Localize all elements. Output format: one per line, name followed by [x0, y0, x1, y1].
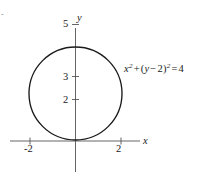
x-tick-label-2: 2 [116, 144, 121, 155]
equation-plus: + [133, 63, 141, 74]
corner-mark: - [1, 11, 4, 19]
x-axis-label: x [143, 136, 148, 147]
circle-graph-figure: - 5 3 2 -2 2 y x x2+(y−2)2=4 [0, 0, 199, 176]
y-tick-label-5: 5 [63, 19, 68, 30]
equation-rhs: 4 [179, 63, 184, 74]
y-tick-label-2: 2 [63, 95, 68, 106]
y-tick-label-3: 3 [63, 72, 68, 83]
x-tick-label-neg2: -2 [24, 144, 33, 155]
equation-annotation: x2+(y−2)2=4 [124, 64, 184, 75]
y-axis-label: y [77, 13, 82, 24]
equation-equals: = [170, 63, 178, 74]
